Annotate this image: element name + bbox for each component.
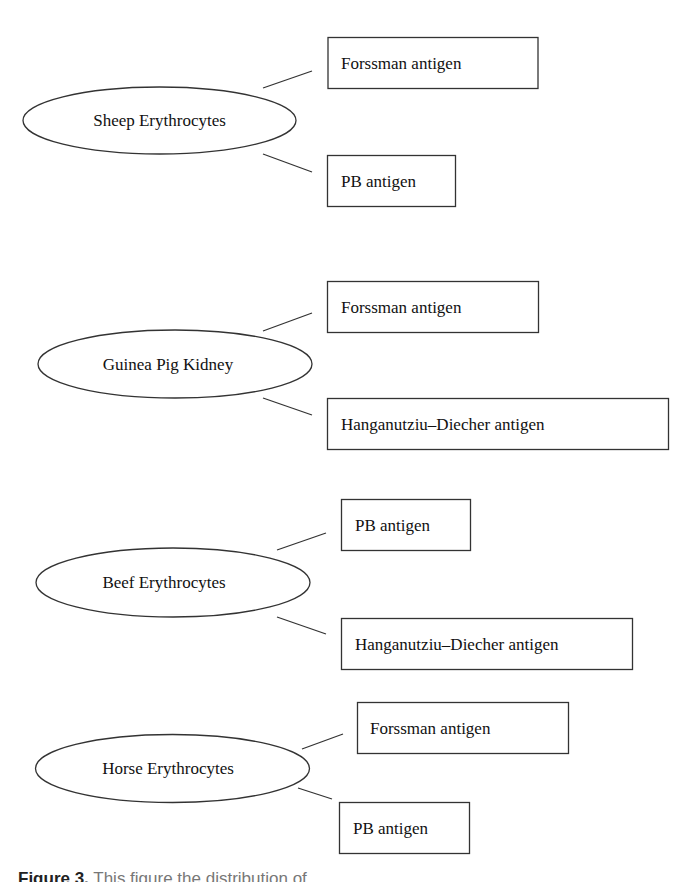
antigen-label: Hanganutziu–Diecher antigen xyxy=(341,415,545,434)
source-label: Guinea Pig Kidney xyxy=(103,355,234,374)
group-beef-erythrocytes: Beef Erythrocytes PB antigen Hanganutziu… xyxy=(36,500,633,670)
figure-caption-label: Figure 3. xyxy=(18,869,89,882)
group-sheep-erythrocytes: Sheep Erythrocytes Forssman antigen PB a… xyxy=(23,38,538,207)
connector-line xyxy=(263,71,312,88)
connector-line xyxy=(263,313,312,331)
source-label: Sheep Erythrocytes xyxy=(93,111,226,130)
figure-caption-text: This figure the distribution of xyxy=(93,869,307,882)
group-guinea-pig-kidney: Guinea Pig Kidney Forssman antigen Hanga… xyxy=(38,282,669,450)
diagram-canvas: Sheep Erythrocytes Forssman antigen PB a… xyxy=(0,0,695,882)
antigen-label: PB antigen xyxy=(341,172,417,191)
source-label: Horse Erythrocytes xyxy=(102,759,234,778)
antigen-label: Forssman antigen xyxy=(341,298,462,317)
connector-line xyxy=(298,788,332,799)
connector-line xyxy=(263,154,312,172)
antigen-distribution-diagram: Sheep Erythrocytes Forssman antigen PB a… xyxy=(0,0,695,882)
connector-line xyxy=(277,533,326,550)
source-label: Beef Erythrocytes xyxy=(102,573,225,592)
antigen-label: Forssman antigen xyxy=(370,719,491,738)
antigen-label: Forssman antigen xyxy=(341,54,462,73)
connector-line xyxy=(302,734,343,749)
connector-line xyxy=(277,617,326,634)
figure-caption: Figure 3. This figure the distribution o… xyxy=(18,868,695,882)
group-horse-erythrocytes: Horse Erythrocytes Forssman antigen PB a… xyxy=(36,703,569,854)
antigen-label: PB antigen xyxy=(355,516,431,535)
antigen-label: Hanganutziu–Diecher antigen xyxy=(355,635,559,654)
antigen-label: PB antigen xyxy=(353,819,429,838)
connector-line xyxy=(263,398,312,415)
